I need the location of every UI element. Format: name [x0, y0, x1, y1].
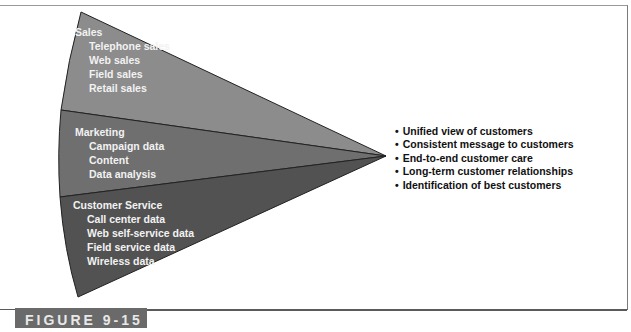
segment-title: Sales — [75, 25, 170, 39]
segment-item: Field service data — [73, 240, 194, 254]
benefit-item: Long-term customer relationships — [395, 165, 574, 178]
segment-marketing-text: Marketing Campaign data Content Data ana… — [75, 125, 164, 181]
segment-item: Retail sales — [75, 81, 170, 95]
segment-item: Web self-service data — [73, 226, 194, 240]
segment-title: Customer Service — [73, 198, 194, 212]
segment-customer-service-text: Customer Service Call center data Web se… — [73, 198, 194, 268]
segment-item: Campaign data — [75, 139, 164, 153]
segment-item: Field sales — [75, 67, 170, 81]
benefit-item: Unified view of customers — [395, 125, 574, 138]
benefit-item: End-to-end customer care — [395, 152, 574, 165]
figure-caption-rule — [147, 310, 627, 311]
segment-item: Content — [75, 153, 164, 167]
segment-title: Marketing — [75, 125, 164, 139]
segment-item: Call center data — [73, 212, 194, 226]
segment-item: Telephone sales — [75, 39, 170, 53]
benefits-list: Unified view of customers Consistent mes… — [395, 125, 574, 192]
segment-sales-text: Sales Telephone sales Web sales Field sa… — [75, 25, 170, 95]
benefit-item: Identification of best customers — [395, 179, 574, 192]
segment-item: Wireless data — [73, 254, 194, 268]
segment-item: Data analysis — [75, 167, 164, 181]
figure-label: FIGURE 9-15 — [15, 308, 147, 328]
benefit-item: Consistent message to customers — [395, 138, 574, 151]
segment-item: Web sales — [75, 53, 170, 67]
